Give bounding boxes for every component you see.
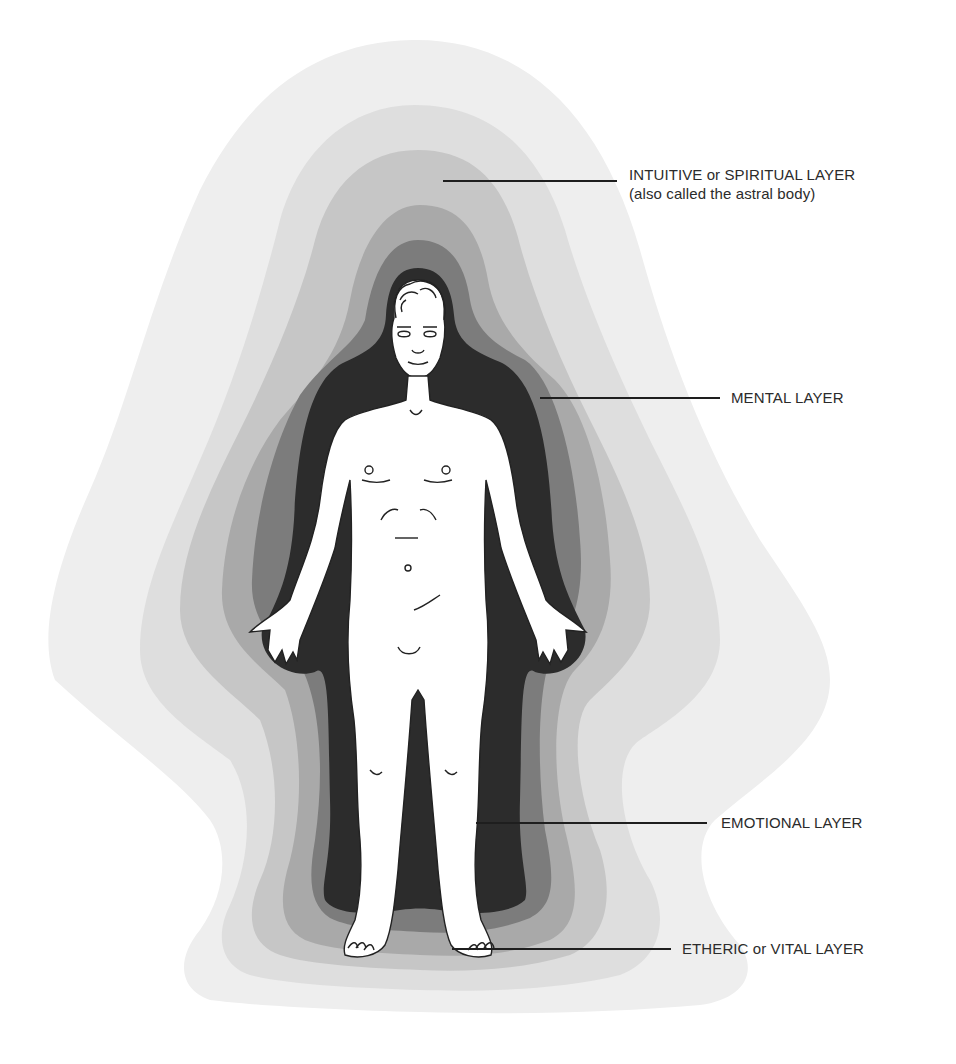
right-eye bbox=[424, 331, 436, 337]
label-intuitive-layer: INTUITIVE or SPIRITUAL LAYER (also calle… bbox=[629, 165, 855, 203]
label-emotional-layer: EMOTIONAL LAYER bbox=[721, 813, 863, 832]
right-nipple bbox=[442, 466, 450, 474]
label-intuitive-line2: (also called the astral body) bbox=[629, 184, 855, 203]
label-etheric-line1: ETHERIC or VITAL LAYER bbox=[682, 939, 864, 958]
label-mental-line1: MENTAL LAYER bbox=[731, 388, 844, 407]
head bbox=[392, 280, 445, 378]
label-intuitive-line1: INTUITIVE or SPIRITUAL LAYER bbox=[629, 165, 855, 184]
aura-diagram: INTUITIVE or SPIRITUAL LAYER (also calle… bbox=[0, 0, 956, 1064]
label-emotional-line1: EMOTIONAL LAYER bbox=[721, 813, 863, 832]
label-mental-layer: MENTAL LAYER bbox=[731, 388, 844, 407]
aura-layers-illustration bbox=[0, 0, 956, 1064]
label-etheric-layer: ETHERIC or VITAL LAYER bbox=[682, 939, 864, 958]
left-nipple bbox=[365, 466, 373, 474]
left-eye bbox=[398, 331, 410, 337]
